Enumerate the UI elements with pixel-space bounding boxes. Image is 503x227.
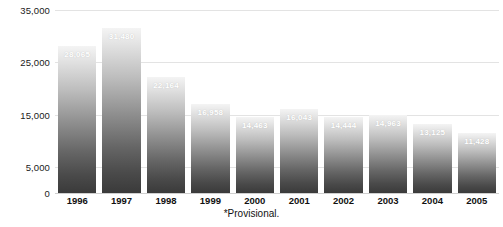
bar-value-label: 31,480: [102, 32, 140, 41]
bar-value-label: 16,043: [280, 113, 318, 122]
x-tick-label-1996: 1996: [55, 195, 99, 206]
y-axis: 05,00015,00025,00035,000: [0, 10, 50, 193]
bar-slot: 22,164: [147, 10, 185, 193]
x-tick-label-1999: 1999: [188, 195, 232, 206]
y-tick-label: 35,000: [2, 5, 50, 16]
bar[interactable]: [191, 104, 229, 193]
bar-value-label: 14,444: [324, 121, 362, 130]
bar-slot: 16,043: [280, 10, 318, 193]
bar-value-label: 11,428: [458, 137, 496, 146]
bar-slot: 16,958: [191, 10, 229, 193]
bar[interactable]: [102, 28, 140, 193]
bar-value-label: 14,463: [236, 121, 274, 130]
gridline: [55, 193, 499, 194]
plot-area: 28,06531,48022,16416,95814,46316,04314,4…: [55, 10, 499, 193]
y-tick-label: 25,000: [2, 57, 50, 68]
bar-value-label: 13,125: [413, 128, 451, 137]
x-tick-label-1998: 1998: [144, 195, 188, 206]
bar[interactable]: [147, 77, 185, 193]
bar-value-label: 16,958: [191, 108, 229, 117]
x-tick-label-2000: 2000: [233, 195, 277, 206]
x-tick-label-2004: 2004: [410, 195, 454, 206]
y-tick-label: 0: [2, 188, 50, 199]
bar-chart: 05,00015,00025,00035,000 28,06531,48022,…: [0, 0, 503, 227]
chart-footnote: *Provisional.: [0, 208, 503, 219]
y-tick-label: 5,000: [2, 161, 50, 172]
bar-series: 28,06531,48022,16416,95814,46316,04314,4…: [55, 10, 499, 193]
x-tick-label-2003: 2003: [366, 195, 410, 206]
bar[interactable]: [58, 46, 96, 193]
x-tick-label-2002: 2002: [321, 195, 365, 206]
bar-slot: 14,963: [369, 10, 407, 193]
bar-slot: 14,463: [236, 10, 274, 193]
bar-value-label: 28,065: [58, 50, 96, 59]
bar-slot: 11,428: [458, 10, 496, 193]
x-tick-label-2005: 2005: [455, 195, 499, 206]
bar-slot: 28,065: [58, 10, 96, 193]
bar-slot: 31,480: [102, 10, 140, 193]
bar-slot: 13,125: [413, 10, 451, 193]
bar-value-label: 14,963: [369, 119, 407, 128]
x-tick-label-1997: 1997: [99, 195, 143, 206]
bar-value-label: 22,164: [147, 81, 185, 90]
y-tick-label: 15,000: [2, 109, 50, 120]
x-tick-label-2001: 2001: [277, 195, 321, 206]
bar-slot: 14,444: [324, 10, 362, 193]
